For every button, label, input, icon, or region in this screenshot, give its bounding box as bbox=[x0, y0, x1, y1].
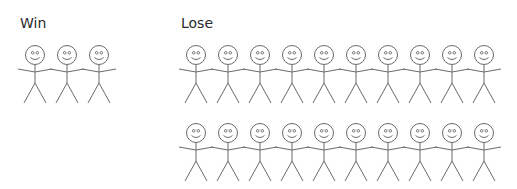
stick-figure-smiley-icon bbox=[211, 124, 245, 182]
figures-canvas bbox=[0, 0, 517, 189]
stick-figure-smiley-icon bbox=[179, 46, 213, 104]
stick-figure-smiley-icon bbox=[179, 124, 213, 182]
stick-figure-smiley-icon bbox=[275, 46, 309, 104]
stick-figure-smiley-icon bbox=[307, 46, 341, 104]
stick-figure-smiley-icon bbox=[50, 46, 84, 104]
stick-figure-smiley-icon bbox=[371, 124, 405, 182]
stick-figure-smiley-icon bbox=[307, 124, 341, 182]
stick-figure-smiley-icon bbox=[275, 124, 309, 182]
lose-group bbox=[179, 46, 501, 182]
stick-figure-smiley-icon bbox=[18, 46, 52, 104]
stick-figure-smiley-icon bbox=[211, 46, 245, 104]
stick-figure-smiley-icon bbox=[467, 46, 501, 104]
stick-figure-smiley-icon bbox=[403, 46, 437, 104]
stick-figure-smiley-icon bbox=[435, 46, 469, 104]
stick-figure-smiley-icon bbox=[467, 124, 501, 182]
stick-figure-smiley-icon bbox=[371, 46, 405, 104]
win-group bbox=[18, 46, 116, 104]
stick-figure-smiley-icon bbox=[243, 46, 277, 104]
stick-figure-smiley-icon bbox=[82, 46, 116, 104]
stick-figure-smiley-icon bbox=[403, 124, 437, 182]
stick-figure-smiley-icon bbox=[339, 46, 373, 104]
stick-figure-smiley-icon bbox=[339, 124, 373, 182]
stick-figure-smiley-icon bbox=[243, 124, 277, 182]
stick-figure-smiley-icon bbox=[435, 124, 469, 182]
